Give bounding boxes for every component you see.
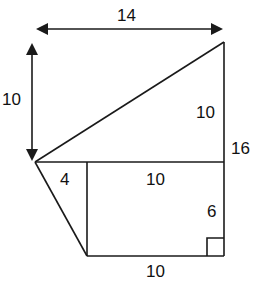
label-total-right-height: 16 — [231, 139, 250, 158]
label-rectangle-right: 6 — [207, 202, 216, 221]
label-rectangle-bottom: 10 — [146, 262, 165, 281]
right-angle-marker — [207, 238, 224, 256]
label-left-height: 10 — [2, 90, 21, 109]
label-small-triangle-base: 4 — [60, 170, 69, 189]
label-top-width: 14 — [117, 6, 136, 25]
arrowhead-right-icon — [211, 23, 223, 35]
arrowhead-left-icon — [36, 23, 48, 35]
label-rectangle-top: 10 — [146, 170, 165, 189]
composite-figure-diagram: 14 10 10 16 4 10 6 10 — [0, 0, 256, 281]
arrowhead-down-icon — [26, 149, 38, 161]
arrowhead-up-icon — [26, 43, 38, 55]
label-triangle-right-side: 10 — [196, 103, 215, 122]
top-triangle-hypotenuse — [35, 42, 224, 162]
